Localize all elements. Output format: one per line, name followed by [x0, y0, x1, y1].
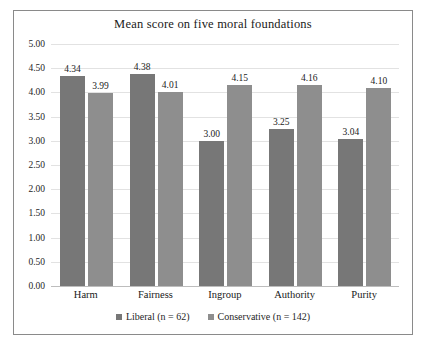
x-axis-tick-label: Harm: [51, 289, 121, 300]
bars-layer: 4.343.994.384.013.004.153.254.163.044.10: [51, 44, 399, 286]
legend-label: Liberal (n = 62): [126, 311, 190, 322]
y-axis-tick-label: 4.50: [28, 63, 45, 73]
bar-group: 3.044.10: [329, 44, 399, 286]
bar[interactable]: 4.38: [130, 74, 155, 286]
legend-label: Conservative (n = 142): [218, 311, 311, 322]
y-axis-tick-label: 2.50: [28, 160, 45, 170]
y-axis-tick-label: 2.00: [28, 184, 45, 194]
bar[interactable]: 3.00: [199, 141, 224, 286]
bar-value-label: 4.38: [134, 62, 151, 72]
bar[interactable]: 4.16: [297, 85, 322, 286]
bar-value-label: 4.16: [301, 73, 318, 83]
x-axis-tick-label: Authority: [260, 289, 330, 300]
bar[interactable]: 3.99: [88, 93, 113, 286]
y-axis-tick-label: 1.00: [28, 233, 45, 243]
bar[interactable]: 4.10: [366, 88, 391, 286]
chart-legend: Liberal (n = 62)Conservative (n = 142): [14, 311, 412, 322]
legend-swatch-icon: [208, 314, 214, 320]
x-axis-tick-label: Fairness: [121, 289, 191, 300]
bar-group: 3.004.15: [190, 44, 260, 286]
y-axis-tick-label: 1.50: [28, 208, 45, 218]
x-axis-tick-label: Ingroup: [190, 289, 260, 300]
y-axis-tick-label: 0.50: [28, 257, 45, 267]
y-axis: 0.000.501.001.502.002.503.003.504.004.50…: [14, 44, 48, 286]
legend-swatch-icon: [116, 314, 122, 320]
x-axis-tick-label: Purity: [329, 289, 399, 300]
bar-value-label: 4.10: [371, 76, 388, 86]
bar-value-label: 3.99: [92, 81, 109, 91]
bar-value-label: 4.01: [162, 80, 179, 90]
y-axis-tick-label: 4.00: [28, 87, 45, 97]
y-axis-tick-label: 3.00: [28, 136, 45, 146]
y-axis-tick-label: 3.50: [28, 112, 45, 122]
y-axis-tick-label: 5.00: [28, 39, 45, 49]
legend-item[interactable]: Liberal (n = 62): [116, 311, 190, 322]
bar[interactable]: 3.04: [338, 139, 363, 286]
bar-value-label: 3.04: [343, 127, 360, 137]
y-axis-tick-label: 0.00: [28, 281, 45, 291]
bar-value-label: 3.25: [273, 117, 290, 127]
chart-frame: Mean score on five moral foundations 0.0…: [13, 10, 413, 335]
x-axis: HarmFairnessIngroupAuthorityPurity: [51, 289, 399, 309]
bar-value-label: 4.34: [64, 64, 81, 74]
bar-value-label: 4.15: [231, 73, 248, 83]
gridline: [51, 286, 399, 287]
plot-area: 4.343.994.384.013.004.153.254.163.044.10: [51, 44, 399, 286]
bar-value-label: 3.00: [203, 129, 220, 139]
bar[interactable]: 4.34: [60, 76, 85, 286]
legend-item[interactable]: Conservative (n = 142): [208, 311, 311, 322]
chart-title: Mean score on five moral foundations: [14, 17, 412, 32]
bar-group: 4.384.01: [121, 44, 191, 286]
bar-group: 3.254.16: [260, 44, 330, 286]
bar-group: 4.343.99: [51, 44, 121, 286]
bar[interactable]: 3.25: [269, 129, 294, 286]
bar[interactable]: 4.15: [227, 85, 252, 286]
bar[interactable]: 4.01: [158, 92, 183, 286]
